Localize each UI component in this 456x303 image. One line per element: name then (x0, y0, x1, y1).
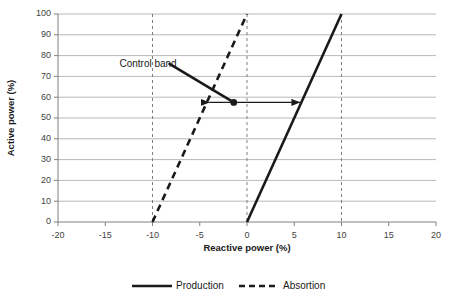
y-tick-label-30: 30 (41, 154, 51, 164)
y-tick-label-90: 90 (41, 29, 51, 39)
y-tick-label-0: 0 (46, 216, 51, 226)
x-tick-label-15: 15 (384, 230, 394, 240)
y-tick-label-80: 80 (41, 50, 51, 60)
x-axis-title: Reactive power (%) (203, 242, 290, 253)
reactive-power-vs-active-power-chart: 0102030405060708090100 -20-15-10-5051015… (0, 0, 456, 303)
x-tick-label--20: -20 (51, 230, 64, 240)
y-tick-label-60: 60 (41, 92, 51, 102)
y-tick-label-10: 10 (41, 196, 51, 206)
x-tick-label--5: -5 (196, 230, 204, 240)
y-tick-label-50: 50 (41, 112, 51, 122)
x-tick-label-5: 5 (292, 230, 297, 240)
operating-point-marker (230, 99, 237, 106)
y-tick-label-100: 100 (36, 8, 51, 18)
x-tick-label-0: 0 (244, 230, 249, 240)
chart-background (0, 0, 456, 303)
x-tick-label--15: -15 (99, 230, 112, 240)
legend-label-absortion: Absortion (283, 280, 325, 291)
chart-figure: 0102030405060708090100 -20-15-10-5051015… (0, 0, 456, 303)
control-band-label: Control band (119, 58, 176, 69)
y-axis-title: Active power (%) (5, 80, 16, 157)
legend-label-production: Production (176, 280, 224, 291)
y-tick-label-40: 40 (41, 133, 51, 143)
x-tick-label-10: 10 (336, 230, 346, 240)
y-tick-label-70: 70 (41, 71, 51, 81)
x-tick-label-20: 20 (431, 230, 441, 240)
y-tick-label-20: 20 (41, 175, 51, 185)
x-tick-label--10: -10 (146, 230, 159, 240)
